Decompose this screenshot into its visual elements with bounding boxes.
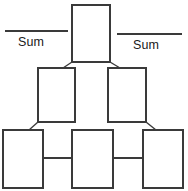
box-top-1[interactable] bbox=[72, 5, 110, 62]
box-mid-1[interactable] bbox=[38, 68, 75, 122]
box-bot-3[interactable] bbox=[143, 130, 183, 188]
connector-mid-right-to-bot-right bbox=[146, 122, 156, 130]
sum-label-right: Sum bbox=[133, 39, 159, 52]
box-group bbox=[3, 5, 183, 188]
box-bot-1[interactable] bbox=[3, 130, 43, 188]
connector-mid-left-to-bot-left bbox=[29, 122, 38, 130]
sum-label-left: Sum bbox=[18, 36, 44, 49]
sum-pyramid-diagram: Sum Sum bbox=[0, 0, 188, 191]
connector-top-to-mid-right bbox=[110, 62, 120, 68]
box-mid-2[interactable] bbox=[108, 68, 146, 122]
connector-top-to-mid-left bbox=[63, 62, 72, 68]
diagram-canvas bbox=[0, 0, 188, 191]
box-bot-2[interactable] bbox=[72, 130, 113, 188]
